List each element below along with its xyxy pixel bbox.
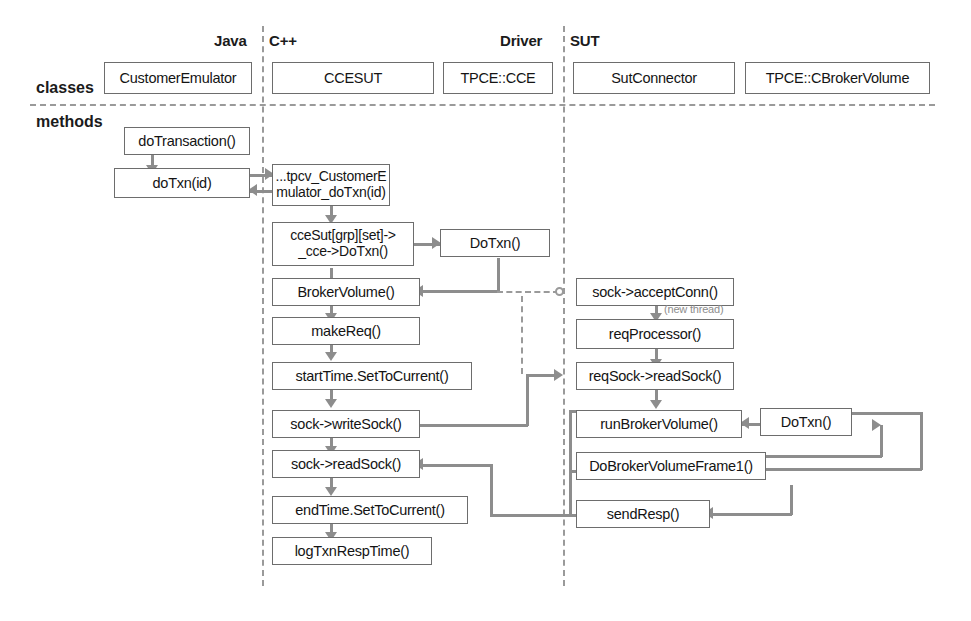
- connector-writesock-right: [420, 424, 528, 427]
- method-box-end-time-set-to-current[interactable]: endTime.SetToCurrent(): [272, 496, 468, 524]
- lane-label-driver: Driver: [500, 32, 542, 49]
- connector-driver-dotxn-down: [497, 258, 500, 292]
- lane-label-sut: SUT: [570, 32, 599, 49]
- method-box-req-sock-read-sock[interactable]: reqSock->readSock(): [576, 362, 734, 390]
- connector-sendresp-to-sock-readsock: [420, 464, 492, 467]
- method-box-run-broker-volume[interactable]: runBrokerVolume(): [576, 410, 742, 438]
- method-box-make-req[interactable]: makeReq(): [272, 317, 420, 345]
- class-box-customer-emulator[interactable]: CustomerEmulator: [104, 62, 252, 94]
- method-box-driver-dotxn[interactable]: DoTxn(): [440, 229, 550, 257]
- row-label-classes: classes: [36, 79, 94, 97]
- connector-runbrokervolume-to-frame1: [569, 410, 572, 472]
- connector-broker-dotxn-loop-down: [920, 412, 923, 470]
- method-box-start-time-set-to-current[interactable]: startTime.SetToCurrent(): [272, 362, 472, 390]
- method-box-broker-dotxn[interactable]: DoTxn(): [760, 408, 852, 436]
- arrowhead-open-async-accept-conn: [555, 287, 564, 296]
- sequence-diagram-canvas: Java C++ Driver SUT classes methods Cust…: [0, 0, 971, 621]
- method-box-tpcv-customer-emulator-dotxn[interactable]: ...tpcv_CustomerE mulator_doTxn(id): [272, 164, 390, 206]
- arrowhead-makereq-to-starttime: [325, 352, 337, 361]
- connector-frame1-return-left: [760, 455, 882, 458]
- arrowhead-readsock-to-endtime: [325, 487, 337, 496]
- method-box-req-processor[interactable]: reqProcessor(): [576, 319, 734, 349]
- arrowhead-frame1-return-to-broker-dotxn: [872, 419, 881, 431]
- lane-label-java: Java: [214, 32, 247, 49]
- connector-driver-dotxn-to-brokervolume: [420, 290, 500, 293]
- lane-label-cpp: C++: [269, 32, 297, 49]
- connector-frame1-to-sendresp-down: [790, 485, 793, 515]
- method-box-do-txn-id[interactable]: doTxn(id): [114, 168, 250, 198]
- method-box-do-broker-volume-frame1[interactable]: DoBrokerVolumeFrame1(): [576, 452, 766, 480]
- method-box-log-txn-resp-time[interactable]: logTxnRespTime(): [272, 537, 432, 565]
- method-box-send-resp[interactable]: sendResp(): [576, 500, 710, 528]
- connector-frame1-to-sendresp-rail: [569, 470, 572, 516]
- arrowhead-reqsock-readsock-to-runbrokervolume: [650, 400, 662, 409]
- row-label-methods: methods: [36, 113, 103, 131]
- method-box-sock-read-sock[interactable]: sock->readSock(): [272, 450, 420, 478]
- connector-frame1-to-sendresp-left: [710, 513, 792, 516]
- connector-sendresp-up: [490, 464, 493, 516]
- method-box-do-transaction[interactable]: doTransaction(): [124, 127, 250, 155]
- class-box-sut-connector[interactable]: SutConnector: [573, 62, 735, 94]
- arrowhead-starttime-to-writesock: [325, 399, 337, 408]
- connector-sendresp-left: [490, 514, 580, 517]
- class-box-tpce-cce[interactable]: TPCE::CCE: [443, 62, 553, 94]
- class-box-ccesut[interactable]: CCESUT: [272, 62, 434, 94]
- lane-divider-driver-sut: [563, 26, 565, 586]
- lane-divider-java-cpp: [262, 26, 264, 586]
- method-box-sock-write-sock[interactable]: sock->writeSock(): [272, 410, 420, 438]
- class-box-tpce-cbrokervolume[interactable]: TPCE::CBrokerVolume: [745, 62, 930, 94]
- arrowhead-writesock-to-reqsock-readsock: [554, 369, 563, 381]
- method-box-broker-volume[interactable]: BrokerVolume(): [272, 278, 420, 306]
- connector-async-to-accept-conn: [497, 291, 559, 293]
- connector-async-lifeline: [521, 296, 523, 374]
- method-box-ccesut-grp-set-cce-dotxn[interactable]: cceSut[grp][set]-> _cce->DoTxn(): [272, 222, 414, 266]
- connector-broker-dotxn-loop-top: [845, 412, 923, 415]
- method-box-sock-accept-conn[interactable]: sock->acceptConn(): [576, 278, 734, 306]
- connector-writesock-up: [526, 374, 529, 426]
- annotation-new-thread: (new thread): [664, 303, 723, 315]
- classes-methods-divider: [30, 104, 935, 106]
